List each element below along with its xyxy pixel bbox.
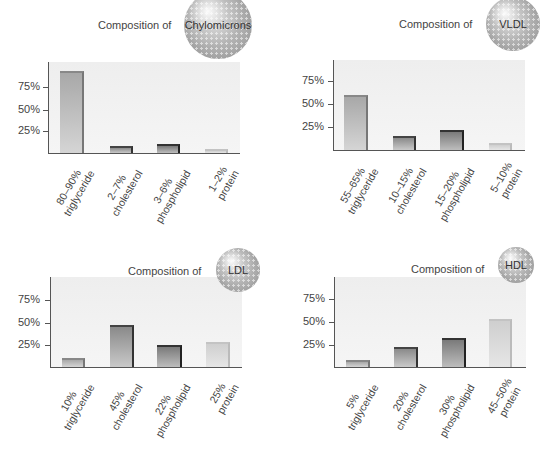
x-label-triglyceride: 5%triglyceride (335, 376, 381, 432)
chart-chylomicrons: Composition of Chylomicrons 75% 50% 25% … (0, 0, 276, 224)
tick-label-75: 75% (291, 292, 325, 304)
x-label-triglyceride: 80–90%triglyceride (51, 162, 97, 218)
bar-phospholipid (157, 345, 182, 367)
tick-25 (43, 131, 49, 132)
bar-phospholipid (442, 338, 466, 367)
chart-title: Composition of (399, 18, 472, 30)
tick-25 (329, 345, 335, 346)
bar-protein (205, 149, 228, 153)
tick-label-75: 75% (6, 293, 40, 305)
tick-25 (45, 345, 51, 346)
bar-phospholipid (440, 130, 464, 150)
x-axis (48, 153, 240, 154)
bar-phospholipid (157, 144, 180, 153)
tick-label-25: 25% (291, 338, 325, 350)
x-label-triglyceride: 10%triglyceride (51, 376, 97, 432)
tick-label-25: 25% (6, 124, 40, 136)
x-label-protein: 25%protein (204, 376, 241, 416)
tick-label-50: 50% (6, 103, 40, 115)
bar-triglyceride (62, 358, 85, 367)
bar-triglyceride (60, 71, 84, 153)
tick-label-75: 75% (290, 74, 324, 86)
x-label-phospholipid: 30%phospholipid (427, 376, 477, 439)
x-label-protein: 1–2%protein (204, 162, 241, 202)
x-axis (50, 367, 242, 368)
tick-75 (329, 299, 335, 300)
tick-label-75: 75% (6, 80, 40, 92)
y-axis (48, 62, 49, 154)
bar-cholesterol (393, 136, 416, 150)
bar-protein (489, 143, 512, 150)
tick-75 (328, 81, 334, 82)
particle-name: Chylomicrons (185, 19, 252, 31)
tick-50 (45, 323, 51, 324)
tick-label-25: 25% (6, 338, 40, 350)
bar-protein (206, 342, 230, 367)
y-axis (333, 60, 334, 151)
tick-50 (43, 110, 49, 111)
x-label-cholesterol: 45%cholesterol (99, 376, 145, 432)
x-label-phospholipid: 3–6%phospholipid (143, 162, 193, 225)
x-label-protein: 5–10%protein (488, 160, 525, 200)
x-label-cholesterol: 10–15%cholesterol (383, 160, 429, 216)
chart-hdl: Composition of HDL 75% 50% 25% 5%triglyc… (276, 225, 552, 449)
tick-50 (329, 322, 335, 323)
particle-name: LDL (228, 264, 248, 276)
bar-cholesterol (110, 325, 134, 367)
chart-vldl: Composition of VLDL 75% 50% 25% 55–65%tr… (276, 0, 552, 224)
x-axis (333, 150, 525, 151)
particle-name: VLDL (499, 18, 527, 30)
x-label-triglyceride: 55–65%triglyceride (335, 160, 381, 216)
chart-title: Composition of (128, 265, 201, 277)
chylomicron-sphere-icon: Chylomicrons (184, 0, 252, 59)
vldl-sphere-icon: VLDL (486, 0, 540, 51)
x-axis (334, 367, 526, 368)
hdl-sphere-icon: HDL (498, 247, 534, 283)
ldl-sphere-icon: LDL (216, 248, 260, 292)
x-label-phospholipid: 22%phospholipid (143, 376, 193, 439)
chart-ldl: Composition of LDL 75% 50% 25% 10%trigly… (0, 225, 276, 449)
x-label-cholesterol: 2–7%cholesterol (99, 162, 145, 218)
bar-triglyceride (346, 360, 370, 367)
bar-protein (489, 319, 512, 367)
chart-title: Composition of (98, 19, 171, 31)
tick-75 (43, 87, 49, 88)
bar-triglyceride (344, 95, 368, 150)
x-label-phospholipid: 15–20%phospholipid (427, 160, 477, 223)
tick-50 (328, 104, 334, 105)
tick-label-25: 25% (290, 120, 324, 132)
chart-title: Composition of (411, 263, 484, 275)
tick-label-50: 50% (290, 97, 324, 109)
particle-name: HDL (505, 259, 527, 271)
tick-label-50: 50% (6, 316, 40, 328)
x-label-protein: 45–50%protein (485, 376, 525, 421)
x-label-cholesterol: 20%cholesterol (383, 376, 429, 432)
tick-75 (45, 300, 51, 301)
tick-25 (328, 127, 334, 128)
tick-label-50: 50% (291, 315, 325, 327)
bar-cholesterol (394, 347, 418, 367)
bar-cholesterol (110, 146, 133, 153)
